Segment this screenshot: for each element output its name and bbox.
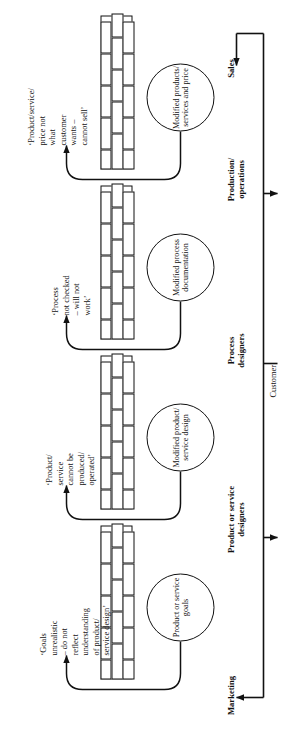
- stage-product-service-designers: Modified product/ service design ‘Produc…: [0, 397, 301, 563]
- diagram-root: Product or service goals ‘Goals unrealis…: [0, 0, 301, 733]
- stage-label-process-designers: Process designers: [226, 309, 246, 391]
- stage-label-sales: Sales: [226, 40, 236, 96]
- diagram-canvas: Product or service goals ‘Goals unrealis…: [0, 0, 301, 733]
- stage-label-product-designers: Product or service designers: [226, 471, 246, 567]
- circle-process-designers: Modified process documentation: [146, 233, 214, 301]
- circle-label-process-designers: Modified process documentation: [171, 234, 189, 300]
- stage-label-production: Production/ operations: [226, 137, 246, 221]
- stage-process-designers: Modified process documentation ‘Process …: [0, 227, 301, 393]
- stage-sales: Sales: [0, 0, 301, 88]
- spine-label-customer: Customer: [268, 364, 277, 397]
- circle-label-product-designers: Modified product/ service design: [171, 404, 189, 470]
- circle-label-marketing: Product or service goals: [171, 574, 189, 640]
- stage-marketing: Product or service goals ‘Goals unrealis…: [0, 567, 301, 733]
- circle-product-designers: Modified product/ service design: [146, 403, 214, 471]
- stage-label-marketing: Marketing: [226, 657, 236, 733]
- circle-marketing: Product or service goals: [146, 573, 214, 641]
